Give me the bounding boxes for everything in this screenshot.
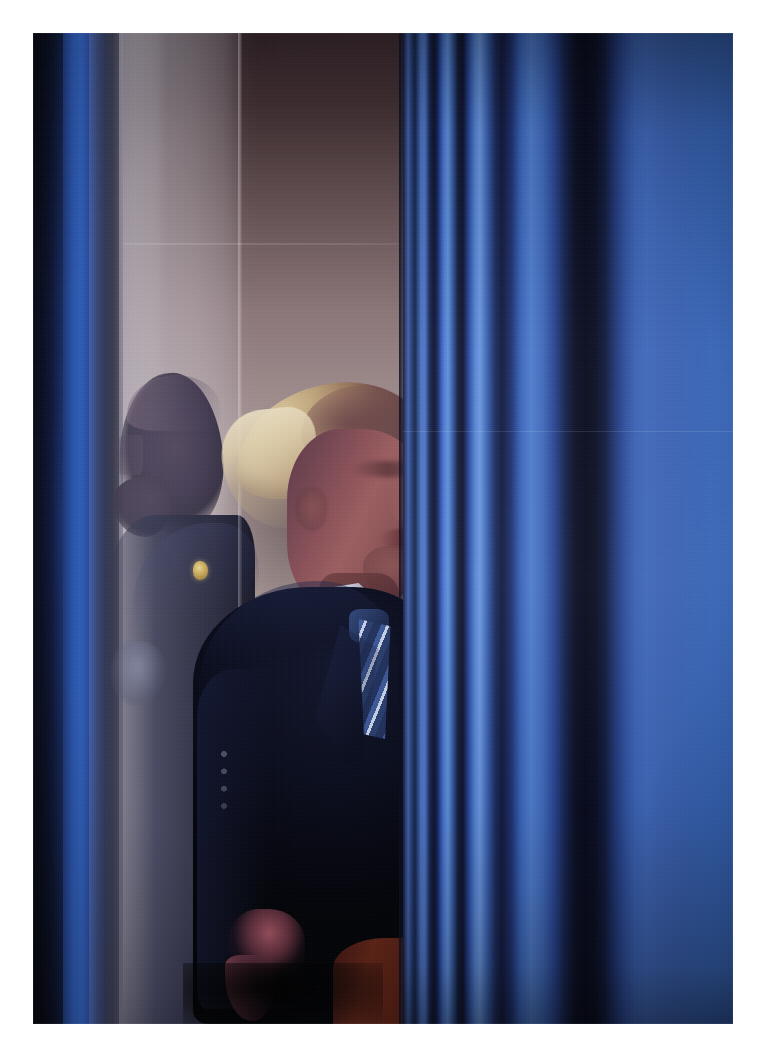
photograph — [33, 33, 733, 1024]
figure-sleeve-buttons — [219, 749, 229, 811]
left-curtain-shadow — [33, 33, 63, 1024]
reflection-nose — [109, 435, 143, 475]
floor-shadow — [183, 963, 383, 1024]
figure-ear — [295, 487, 327, 531]
page-canvas — [0, 0, 766, 1058]
curtain-seam — [403, 431, 733, 432]
curtain-vertical-shading — [403, 33, 733, 1024]
